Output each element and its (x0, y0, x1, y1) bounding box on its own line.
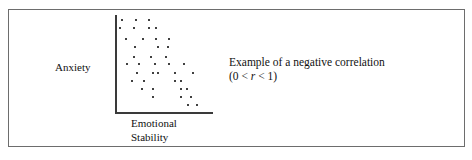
caption-prefix: (0 < (229, 70, 251, 82)
scatter-plot-area (115, 14, 215, 114)
data-point (143, 80, 145, 82)
figure-container: Anxiety Emotional Stability Example of a… (0, 0, 472, 160)
x-axis-label-line-2: Stability (131, 131, 177, 145)
data-point (180, 96, 182, 98)
data-point (155, 27, 157, 29)
data-point (174, 80, 176, 82)
data-point (168, 38, 170, 40)
data-point (155, 38, 157, 40)
data-point (152, 88, 154, 90)
data-point (165, 56, 167, 58)
data-point (167, 46, 169, 48)
data-point (196, 104, 198, 106)
data-point (190, 96, 192, 98)
data-point (133, 27, 135, 29)
data-point (168, 63, 170, 65)
data-point (134, 46, 136, 48)
data-point (119, 27, 121, 29)
data-point (148, 27, 150, 29)
data-point (154, 63, 156, 65)
data-point (135, 19, 137, 21)
data-point (121, 19, 123, 21)
x-axis-label-line-1: Emotional (131, 117, 177, 131)
data-point (192, 72, 194, 74)
data-point (136, 72, 138, 74)
data-point (131, 80, 133, 82)
data-point (141, 88, 143, 90)
data-point (157, 46, 159, 48)
data-point (152, 72, 154, 74)
data-point (150, 56, 152, 58)
data-point (142, 38, 144, 40)
x-axis-label: Emotional Stability (131, 117, 177, 144)
caption-suffix: < 1) (255, 70, 277, 82)
data-point (125, 38, 127, 40)
caption: Example of a negative correlation (0 < r… (229, 55, 385, 83)
caption-line-1: Example of a negative correlation (229, 55, 385, 69)
data-point (152, 96, 154, 98)
data-point (126, 63, 128, 65)
scan-artifact (60, 1, 180, 4)
data-point (180, 88, 182, 90)
caption-line-2: (0 < r < 1) (229, 69, 385, 83)
data-point (157, 72, 159, 74)
y-axis-label: Anxiety (55, 61, 90, 74)
data-point (183, 63, 185, 65)
data-point (133, 56, 135, 58)
data-point (174, 72, 176, 74)
data-point (180, 80, 182, 82)
data-point (138, 63, 140, 65)
data-point (187, 104, 189, 106)
data-point (148, 19, 150, 21)
data-point (186, 88, 188, 90)
